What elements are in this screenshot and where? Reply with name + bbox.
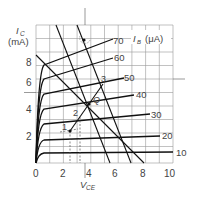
characteristics-diagram: Q 1 2 3 10 20 30 40 50 60 70 I B (μA) I … [0,0,197,200]
svg-text:B: B [137,39,141,45]
label-point-3: 3 [101,74,106,84]
svg-text:(mA): (mA) [8,36,29,47]
y-tick-labels: 2 4 6 8 [26,57,32,142]
svg-text:I: I [133,33,136,44]
load-lines [36,25,144,163]
svg-text:CE: CE [86,184,96,191]
curve-label-50: 50 [124,72,135,83]
svg-text:8: 8 [26,57,32,68]
curve-label-10: 10 [176,147,187,158]
svg-text:I: I [16,25,19,36]
label-point-q: Q [93,95,100,105]
curve-label-60: 60 [114,52,125,63]
label-point-2: 2 [73,108,78,118]
svg-text:(μA): (μA) [145,33,163,44]
svg-text:4: 4 [86,168,92,179]
y-axis-label: I C (mA) [8,25,29,47]
svg-text:2: 2 [60,168,66,179]
label-point-1: 1 [62,122,67,132]
svg-text:6: 6 [26,77,32,88]
svg-text:0: 0 [33,168,39,179]
point-1-dot [68,129,71,132]
top-marker-dot [82,38,85,41]
curve-label-70: 70 [113,35,124,46]
svg-text:8: 8 [140,168,146,179]
x-tick-labels: 0 2 4 6 8 10 [33,168,176,179]
curve-label-40: 40 [136,89,147,100]
curve-ib-70 [36,39,113,163]
svg-text:6: 6 [112,168,118,179]
svg-text:4: 4 [26,104,32,115]
svg-text:2: 2 [26,131,32,142]
svg-text:10: 10 [164,168,176,179]
curve-ib-20 [36,136,160,163]
point-q-dot [87,102,90,105]
curve-label-30: 30 [151,109,162,120]
load-line-a [56,25,110,163]
legend-ib: I B (μA) [131,30,171,45]
x-axis-label: V CE [80,179,96,191]
curve-label-20: 20 [162,130,173,141]
